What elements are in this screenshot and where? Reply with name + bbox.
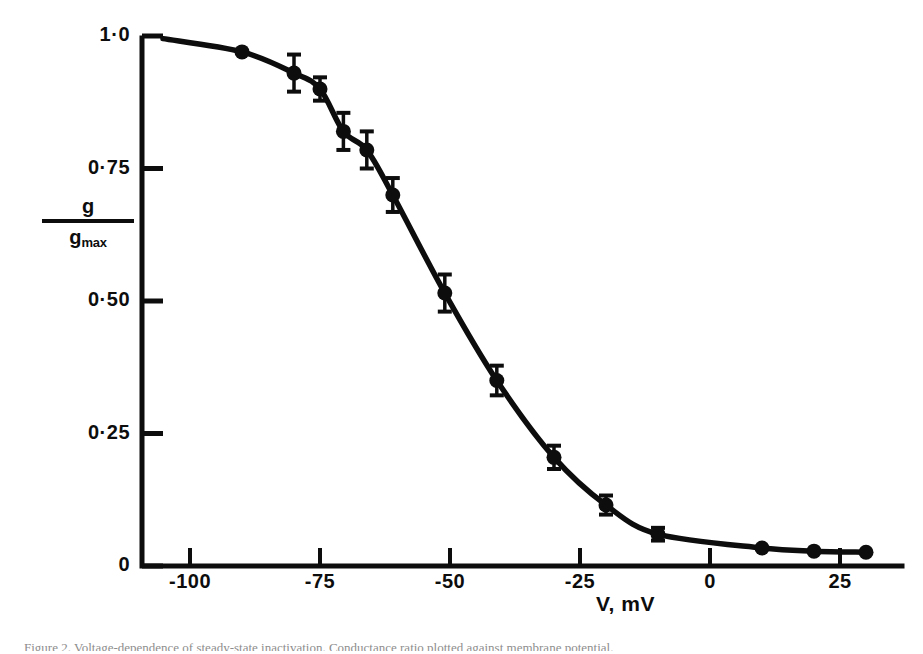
data-point-marker (807, 544, 822, 559)
y-tick-label: 0·50 (0, 288, 130, 311)
plot-canvas (0, 0, 923, 654)
x-tick-label: -25 (520, 570, 640, 593)
sigmoid-fit-line (163, 39, 866, 553)
fitted-curve (163, 39, 866, 553)
data-point-marker (437, 286, 452, 301)
data-point-marker (313, 82, 328, 97)
axis-frame (142, 38, 902, 566)
y-axis-denominator-subscript: max (82, 235, 107, 250)
y-axis-title-denominator: gmax (40, 225, 136, 251)
y-tick-label: 1·0 (0, 23, 130, 46)
axis-lines (142, 38, 902, 566)
data-point-marker (385, 188, 400, 203)
y-axis-fraction-bar (42, 219, 134, 223)
figure-caption: Figure 2. Voltage-dependence of steady-s… (24, 640, 904, 651)
y-axis-title-numerator: g (40, 196, 136, 217)
x-tick-label: -100 (130, 570, 250, 593)
y-tick-label: 0·25 (0, 421, 130, 444)
data-point-marker (489, 373, 504, 388)
y-tick-label: 0·75 (0, 156, 130, 179)
data-point-marker (859, 545, 874, 560)
data-point-marker (336, 124, 351, 139)
y-axis-denominator-base: g (69, 226, 81, 248)
figure-root: 1·00·750·500·250 -100-75-50-25025 g gmax… (0, 0, 923, 654)
x-tick-label: -50 (390, 570, 510, 593)
x-axis-ticks (190, 548, 840, 566)
y-axis-title: g gmax (40, 196, 136, 251)
x-tick-label: -75 (260, 570, 380, 593)
data-point-marker (599, 498, 614, 513)
data-point-marker (547, 450, 562, 465)
data-point-marker (235, 44, 250, 59)
data-points (235, 44, 874, 559)
x-tick-label: 0 (650, 570, 770, 593)
data-point-marker (755, 540, 770, 555)
y-axis-ticks (142, 36, 163, 566)
data-point-marker (287, 66, 302, 81)
y-tick-label: 0 (0, 553, 130, 576)
data-point-marker (651, 527, 666, 542)
x-tick-label: 25 (780, 570, 900, 593)
x-axis-title: V, mV (596, 592, 655, 616)
data-point-marker (359, 142, 374, 157)
